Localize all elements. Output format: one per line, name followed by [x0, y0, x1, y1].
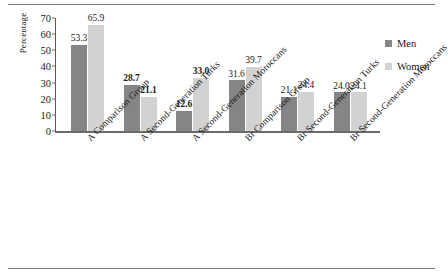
- y-axis-tick-mark: [52, 98, 55, 99]
- y-axis-tick-mark: [52, 66, 55, 67]
- legend-item-label: Men: [397, 38, 416, 49]
- bar-value-label: 65.9: [88, 14, 105, 24]
- top-divider-rule: [8, 4, 435, 5]
- y-axis-tick-label: 50: [41, 45, 52, 56]
- y-axis-tick-label: 40: [41, 61, 52, 72]
- y-axis-tick-mark: [52, 82, 55, 83]
- y-axis-tick-mark: [52, 18, 55, 19]
- y-axis-tick-label: 10: [41, 109, 52, 120]
- y-axis-tick-mark: [52, 114, 55, 115]
- y-axis-tick-label: 20: [41, 93, 52, 104]
- bottom-divider-rule: [8, 268, 435, 269]
- y-axis-tick-mark: [52, 131, 55, 132]
- y-axis-tick-mark: [52, 34, 55, 35]
- legend-item-women[interactable]: Women: [385, 61, 429, 72]
- bar-group: 28.721.1: [124, 18, 157, 131]
- bar-value-label: 31.6: [228, 70, 245, 80]
- bar-women: 65.9: [88, 25, 104, 131]
- bar-men: 12.6: [176, 111, 192, 131]
- bar-men: 53.3: [71, 45, 87, 131]
- chart-legend: MenWomen: [385, 38, 429, 84]
- y-axis-title: Percentage: [18, 0, 28, 73]
- y-axis-tick-label: 0: [46, 126, 51, 137]
- bar-group: 21.124.4: [281, 18, 314, 131]
- bar-value-label: 53.3: [71, 34, 88, 44]
- bar-group: 53.365.9: [71, 18, 104, 131]
- y-axis-tick-label: 70: [41, 13, 52, 24]
- legend-item-men[interactable]: Men: [385, 38, 429, 49]
- y-axis-tick-label: 30: [41, 77, 52, 88]
- legend-swatch-icon: [385, 40, 392, 47]
- y-axis-tick-mark: [52, 50, 55, 51]
- legend-swatch-icon: [385, 63, 392, 70]
- legend-item-label: Women: [397, 61, 429, 72]
- y-axis-tick-label: 60: [41, 29, 52, 40]
- bar-value-label: 39.7: [245, 56, 262, 66]
